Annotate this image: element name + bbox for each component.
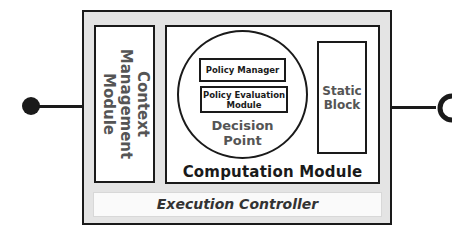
execution-controller-label: Execution Controller: [157, 196, 318, 212]
decision-point-label: Decision Point: [190, 118, 295, 148]
policy-manager-box: Policy Manager: [199, 58, 286, 82]
required-interface-socket-icon: [430, 93, 460, 123]
provided-interface-icon: [22, 97, 40, 115]
computation-module-label: Computation Module: [167, 163, 378, 181]
context-management-module: Context Management Module: [94, 25, 155, 183]
policy-evaluation-label: Policy Evaluation Module: [203, 90, 285, 110]
execution-controller: Execution Controller: [93, 192, 382, 217]
policy-manager-label: Policy Manager: [206, 65, 279, 75]
static-block: Static Block: [317, 41, 367, 154]
context-module-label: Context Management Module: [99, 49, 150, 159]
policy-evaluation-module-box: Policy Evaluation Module: [200, 86, 288, 113]
static-block-label: Static Block: [322, 84, 361, 112]
